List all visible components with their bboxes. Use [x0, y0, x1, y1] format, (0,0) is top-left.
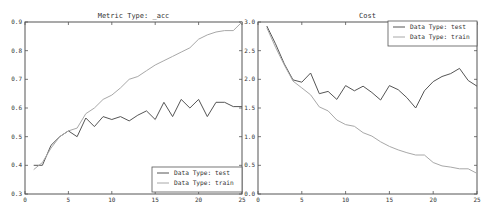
plot-frame [258, 22, 477, 194]
series-line-test [34, 99, 242, 165]
cost-chart: Cost05101520250.00.51.01.52.02.53.0Data … [244, 12, 481, 203]
x-tick-label: 10 [342, 196, 350, 203]
y-tick-label: 0.3 [11, 190, 22, 197]
series-line-train [267, 28, 477, 174]
legend-label: Data Type: train [410, 33, 470, 41]
chart-title: Cost [359, 12, 376, 20]
x-tick-label: 20 [195, 196, 203, 203]
x-tick-label: 0 [23, 196, 27, 203]
x-tick-label: 25 [473, 196, 481, 203]
y-tick-label: 2.5 [244, 47, 255, 54]
legend-label: Data Type: test [174, 169, 230, 177]
y-tick-label: 1.5 [244, 104, 255, 111]
y-tick-label: 0.5 [11, 133, 22, 140]
x-tick-label: 20 [430, 196, 438, 203]
chart-canvas: Metric Type: _acc05101520250.30.40.50.60… [0, 0, 491, 216]
y-tick-label: 0.8 [11, 47, 22, 54]
y-tick-label: 0.9 [11, 18, 22, 25]
x-tick-label: 15 [386, 196, 394, 203]
x-tick-label: 15 [152, 196, 160, 203]
series-line-train [34, 22, 242, 170]
y-tick-label: 0.0 [244, 190, 255, 197]
y-tick-label: 0.6 [11, 104, 22, 111]
accuracy-chart: Metric Type: _acc05101520250.30.40.50.60… [11, 12, 246, 203]
y-tick-label: 0.7 [11, 75, 22, 82]
y-tick-label: 0.5 [244, 161, 255, 168]
y-tick-label: 0.4 [11, 161, 22, 168]
x-tick-label: 0 [256, 196, 260, 203]
x-tick-label: 10 [108, 196, 116, 203]
y-tick-label: 2.0 [244, 75, 255, 82]
legend-label: Data Type: test [410, 23, 466, 31]
x-tick-label: 5 [67, 196, 71, 203]
chart-title: Metric Type: _acc [98, 12, 170, 20]
x-tick-label: 5 [300, 196, 304, 203]
legend: Data Type: testData Type: train [388, 21, 477, 46]
legend-label: Data Type: train [174, 179, 234, 187]
legend: Data Type: testData Type: train [152, 167, 242, 192]
y-tick-label: 3.0 [244, 18, 255, 25]
y-tick-label: 1.0 [244, 133, 255, 140]
x-tick-label: 25 [238, 196, 246, 203]
